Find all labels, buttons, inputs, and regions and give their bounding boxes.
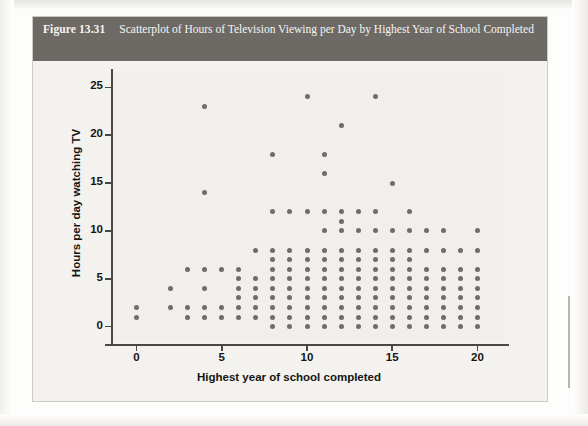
scatter-point (356, 315, 361, 320)
page-bottom-edge (0, 414, 588, 426)
margin-rule (568, 296, 570, 388)
scatter-point (322, 209, 327, 214)
scatter-point (424, 315, 429, 320)
page-left-edge (0, 0, 14, 426)
scatter-point (322, 248, 327, 253)
scatter-point (322, 152, 327, 157)
scatter-point (390, 286, 395, 291)
scatter-point (407, 305, 412, 310)
scatter-point (339, 324, 344, 329)
scatter-point (322, 171, 327, 176)
scatter-point (305, 209, 310, 214)
scatter-point (339, 276, 344, 281)
scatter-point (390, 248, 395, 253)
scatter-point (202, 267, 207, 272)
scatter-point (424, 267, 429, 272)
scatter-point (305, 305, 310, 310)
scatter-point (373, 324, 378, 329)
scatter-point (253, 315, 258, 320)
x-axis-title: Highest year of school completed (39, 371, 539, 383)
scatter-point (441, 315, 446, 320)
scatter-point (305, 315, 310, 320)
scatter-point (253, 248, 258, 253)
scatter-point (441, 248, 446, 253)
scatter-point (305, 324, 310, 329)
scatter-point (373, 305, 378, 310)
scatter-point (373, 209, 378, 214)
plot-field (111, 73, 503, 341)
y-tick-label: 20 (77, 127, 103, 139)
scatter-point (424, 324, 429, 329)
scatter-point (390, 267, 395, 272)
scatter-point (202, 315, 207, 320)
scatter-point (356, 267, 361, 272)
scatter-point (407, 324, 412, 329)
y-tick-mark (105, 134, 111, 136)
scatter-point (356, 257, 361, 262)
x-tick-label: 0 (122, 351, 152, 363)
scatter-point (373, 276, 378, 281)
scatter-point (407, 267, 412, 272)
scatter-point (305, 267, 310, 272)
scatter-point (305, 276, 310, 281)
y-tick-mark (105, 278, 111, 280)
page-right-edge (572, 0, 588, 426)
scatter-point (424, 305, 429, 310)
scatter-point (356, 286, 361, 291)
y-tick-label: 15 (77, 175, 103, 187)
scatter-point (424, 248, 429, 253)
scatterplot: Hours per day watching TV Highest year o… (39, 65, 539, 395)
scatter-point (373, 286, 378, 291)
scatter-point (390, 324, 395, 329)
scatter-point (305, 286, 310, 291)
scatter-point (407, 248, 412, 253)
scatter-point (339, 305, 344, 310)
scatter-point (475, 267, 480, 272)
figure-panel: Figure 13.31 Scatterplot of Hours of Tel… (32, 16, 548, 402)
scatter-point (185, 267, 190, 272)
figure-number: Figure 13.31 (43, 22, 105, 35)
scatter-point (219, 315, 224, 320)
scatter-point (475, 286, 480, 291)
scatter-point (339, 219, 344, 224)
scatter-point (134, 315, 139, 320)
scatter-point (339, 286, 344, 291)
x-tick-label: 15 (377, 351, 407, 363)
scatter-point (458, 267, 463, 272)
scatter-point (322, 315, 327, 320)
scatter-point (424, 286, 429, 291)
scatter-point (356, 305, 361, 310)
scatter-point (322, 257, 327, 262)
scatter-point (390, 305, 395, 310)
scatter-point (407, 286, 412, 291)
scatter-point (390, 315, 395, 320)
scatter-point (390, 181, 395, 186)
scatter-point (322, 305, 327, 310)
y-tick-mark (105, 87, 111, 89)
scatter-point (356, 324, 361, 329)
scatter-point (458, 315, 463, 320)
x-tick-label: 20 (462, 351, 492, 363)
y-tick-mark (105, 182, 111, 184)
scatter-point (390, 257, 395, 262)
scatter-point (390, 276, 395, 281)
y-tick-label: 0 (77, 319, 103, 331)
scatter-point (356, 276, 361, 281)
scatter-point (373, 257, 378, 262)
page-top-edge (0, 0, 588, 10)
scatter-point (236, 315, 241, 320)
scatter-point (356, 209, 361, 214)
scatter-point (373, 315, 378, 320)
scatter-point (441, 286, 446, 291)
scatter-point (373, 248, 378, 253)
scatter-point (475, 305, 480, 310)
scatter-point (458, 248, 463, 253)
y-axis-title: Hours per day watching TV (70, 88, 82, 318)
scatter-point (339, 209, 344, 214)
scatter-point (339, 267, 344, 272)
scatter-point (339, 257, 344, 262)
y-axis-line (111, 69, 113, 345)
y-tick-label: 10 (77, 223, 103, 235)
scatter-point (407, 315, 412, 320)
scatter-point (322, 276, 327, 281)
